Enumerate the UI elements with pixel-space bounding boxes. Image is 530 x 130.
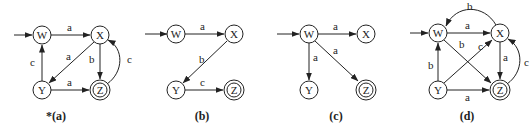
caption-a: *(a) [46, 109, 66, 123]
edge-label: a [333, 44, 338, 56]
edge-label: b [459, 38, 465, 50]
state-x-label: X [362, 28, 370, 40]
diagram-d: a b b c a b a c W X Y Z (d) [410, 0, 529, 123]
state-z-label: Z [97, 84, 104, 96]
state-w-label: W [171, 28, 182, 40]
state-x-label: X [96, 29, 104, 41]
edge-label: a [66, 50, 71, 62]
state-z-label: Z [363, 84, 370, 96]
state-y-label: Y [38, 84, 46, 96]
edge-label: c [524, 56, 529, 68]
edge-label: c [478, 40, 483, 52]
edge-label: a [503, 51, 508, 63]
state-w-label: W [37, 29, 48, 41]
state-x-label: X [230, 28, 238, 40]
caption-d: (d) [460, 109, 475, 123]
edge-z-x [107, 40, 120, 84]
edge-label: a [313, 51, 318, 63]
edge-label: b [89, 53, 95, 65]
state-x-label: X [496, 27, 504, 39]
diagram-c: a a a W X Y Z (c) [277, 20, 376, 123]
state-y-label: Y [172, 84, 180, 96]
state-y-label: Y [434, 84, 442, 96]
edge-label: a [465, 19, 470, 31]
diagram-a: a a b c a c W X Y Z *(a) [14, 21, 132, 123]
edge-label: a [67, 76, 72, 88]
edge-label: a [67, 21, 72, 33]
edge-label: b [467, 0, 473, 12]
automata-figure: a a b c a c W X Y Z *(a) a b [0, 0, 530, 130]
state-y-label: Y [305, 84, 313, 96]
edge-label: b [428, 59, 434, 71]
edge-label: b [199, 53, 205, 65]
state-w-label: W [304, 28, 315, 40]
caption-b: (b) [195, 109, 210, 123]
edge-label: c [30, 56, 35, 68]
diagram-b: a b c W X Y Z (b) [145, 20, 244, 123]
edge-x-y [183, 41, 227, 83]
edge-z-x [507, 39, 520, 84]
edge-label: c [200, 76, 205, 88]
edge-label: a [333, 20, 338, 32]
edge-label: a [200, 20, 205, 32]
state-z-label: Z [231, 84, 238, 96]
state-z-label: Z [497, 84, 504, 96]
caption-c: (c) [329, 109, 342, 123]
edge-label: a [465, 91, 470, 103]
state-w-label: W [433, 27, 444, 39]
edge-label: c [127, 53, 132, 65]
